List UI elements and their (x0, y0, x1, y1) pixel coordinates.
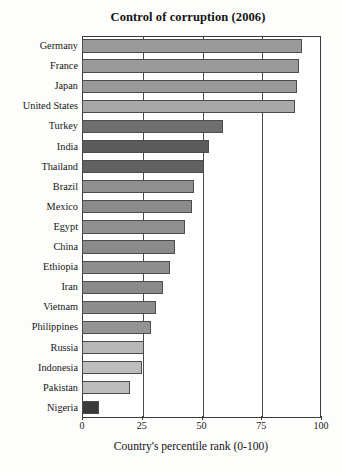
x-tick-label-75: 75 (256, 420, 266, 431)
bar-row (82, 257, 321, 277)
category-label-brazil: Brazil (0, 177, 78, 197)
bar-row (82, 378, 321, 398)
bar-japan (82, 80, 297, 93)
bar-row (82, 56, 321, 76)
bar-row (82, 137, 321, 157)
bar-row (82, 297, 321, 317)
category-label-indonesia: Indonesia (0, 358, 78, 378)
bar-india (82, 140, 209, 153)
x-tick-label-0: 0 (80, 420, 85, 431)
bar-row (82, 96, 321, 116)
category-label-china: China (0, 237, 78, 257)
bar-russia (82, 341, 144, 354)
bar-row (82, 197, 321, 217)
bar-france (82, 59, 299, 72)
bars-layer (82, 36, 321, 418)
bar-row (82, 217, 321, 237)
category-label-philippines: Philippines (0, 317, 78, 337)
category-label-germany: Germany (0, 36, 78, 56)
bar-row (82, 358, 321, 378)
bar-iran (82, 281, 163, 294)
bar-pakistan (82, 381, 130, 394)
bar-row (82, 177, 321, 197)
bar-row (82, 237, 321, 257)
category-label-france: France (0, 56, 78, 76)
bar-row (82, 317, 321, 337)
category-label-vietnam: Vietnam (0, 297, 78, 317)
bar-germany (82, 39, 302, 52)
bar-row (82, 398, 321, 418)
category-label-thailand: Thailand (0, 157, 78, 177)
bar-united-states (82, 100, 295, 113)
bar-mexico (82, 200, 192, 213)
x-tick-label-100: 100 (314, 420, 329, 431)
bar-egypt (82, 220, 185, 233)
category-label-ethiopia: Ethiopia (0, 257, 78, 277)
bar-turkey (82, 120, 223, 133)
bar-brazil (82, 180, 194, 193)
x-tick-label-50: 50 (197, 420, 207, 431)
category-label-pakistan: Pakistan (0, 378, 78, 398)
bar-row (82, 76, 321, 96)
category-label-japan: Japan (0, 76, 78, 96)
category-label-iran: Iran (0, 277, 78, 297)
category-label-nigeria: Nigeria (0, 398, 78, 418)
bar-nigeria (82, 401, 99, 414)
category-label-egypt: Egypt (0, 217, 78, 237)
bar-row (82, 157, 321, 177)
bar-philippines (82, 321, 151, 334)
bar-row (82, 116, 321, 136)
bar-vietnam (82, 301, 156, 314)
category-axis-labels: GermanyFranceJapanUnited StatesTurkeyInd… (0, 36, 78, 418)
bar-row (82, 36, 321, 56)
category-label-turkey: Turkey (0, 116, 78, 136)
chart-container: Control of corruption (2006) GermanyFran… (0, 0, 342, 473)
category-label-mexico: Mexico (0, 197, 78, 217)
bar-row (82, 277, 321, 297)
bar-china (82, 240, 175, 253)
chart-title: Control of corruption (2006) (0, 10, 342, 25)
bar-thailand (82, 160, 204, 173)
bar-row (82, 338, 321, 358)
bar-indonesia (82, 361, 142, 374)
category-label-india: India (0, 137, 78, 157)
x-axis-title: Country's percentile rank (0-100) (0, 440, 342, 453)
bar-ethiopia (82, 261, 170, 274)
x-axis-ticks: 0255075100 (82, 420, 321, 436)
category-label-russia: Russia (0, 338, 78, 358)
x-tick-label-25: 25 (137, 420, 147, 431)
category-label-united-states: United States (0, 96, 78, 116)
